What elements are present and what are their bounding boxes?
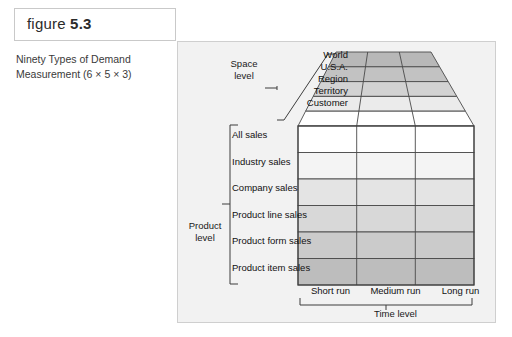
product-level-caption: Product level (182, 220, 228, 244)
space-level-item-territory: Territory (264, 85, 350, 97)
product-level-item-all-sales: All sales (232, 122, 336, 149)
figure-label-number: 5.3 (70, 15, 91, 32)
space-level-caption-line1: Space (222, 58, 266, 70)
space-level-item-world: World (264, 49, 350, 61)
space-level-caption: Space level (222, 58, 266, 82)
space-level-item-region: Region (264, 73, 350, 85)
figure-caption: Ninety Types of Demand Measurement (6 × … (16, 52, 166, 82)
product-level-labels: All sales Industry sales Company sales P… (232, 122, 336, 281)
time-level-labels: Short run Medium run Long run (298, 285, 493, 296)
figure-label: figure 5.3 (27, 15, 92, 32)
figure-label-word: figure (27, 15, 66, 32)
product-level-caption-line1: Product (182, 220, 228, 232)
time-level-caption: Time level (298, 308, 493, 319)
diagram-panel: Space level World U.S.A. Region Territor… (177, 41, 496, 323)
product-level-item-product-form-sales: Product form sales (232, 228, 336, 255)
product-level-caption-line2: level (182, 232, 228, 244)
space-level-item-customer: Customer (264, 97, 350, 109)
space-level-labels: World U.S.A. Region Territory Customer (264, 49, 350, 109)
product-level-item-product-item-sales: Product item sales (232, 255, 336, 282)
product-level-item-company-sales: Company sales (232, 175, 336, 202)
product-level-item-industry-sales: Industry sales (232, 149, 336, 176)
product-level-item-product-line-sales: Product line sales (232, 202, 336, 229)
time-level-item-medium-run: Medium run (363, 285, 428, 296)
space-level-caption-line2: level (222, 70, 266, 82)
figure-label-box: figure 5.3 (14, 8, 176, 41)
time-level-item-long-run: Long run (428, 285, 493, 296)
space-level-item-usa: U.S.A. (264, 61, 350, 73)
time-level-item-short-run: Short run (298, 285, 363, 296)
